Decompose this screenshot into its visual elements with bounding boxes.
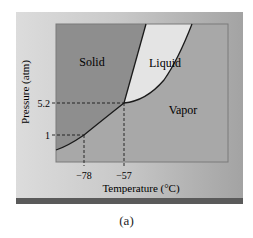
figure-caption: (a) xyxy=(0,213,253,229)
y-axis-label: Pressure (atm) xyxy=(19,60,32,124)
xtick-minus-78: −78 xyxy=(76,170,92,181)
x-axis-label: Temperature (°C) xyxy=(102,182,180,195)
solid-label: Solid xyxy=(79,55,104,69)
vapor-label: Vapor xyxy=(169,103,198,117)
xtick-minus-57: −57 xyxy=(116,170,132,181)
ytick-1: 1 xyxy=(45,130,50,141)
ytick-5-2: 5.2 xyxy=(38,98,51,109)
liquid-label: Liquid xyxy=(149,56,181,70)
phase-diagram: Solid Liquid Vapor 5.2 1 −78 −57 Tempera… xyxy=(0,0,253,238)
